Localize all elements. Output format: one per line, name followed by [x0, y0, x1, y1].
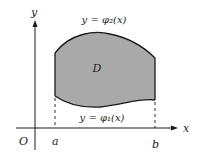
x-axis-label: x: [183, 122, 190, 135]
region-diagram: y x O a b y = φ₂(x) y = φ₁(x) D: [0, 0, 201, 160]
point-b-label: b: [152, 138, 159, 151]
y-axis-label: y: [30, 6, 38, 19]
origin-label: O: [19, 135, 28, 148]
y-axis-arrow-icon: [33, 20, 38, 27]
region-d: [55, 32, 155, 107]
point-a-label: a: [52, 135, 59, 148]
lower-curve-label: y = φ₁(x): [79, 112, 125, 123]
x-axis-arrow-icon: [171, 126, 178, 131]
upper-curve-label: y = φ₂(x): [81, 14, 127, 25]
region-label: D: [92, 62, 102, 75]
